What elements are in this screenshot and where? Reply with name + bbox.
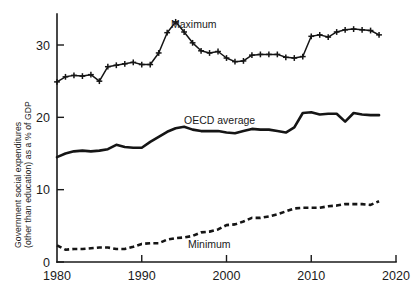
annotation-minimum: Minimum bbox=[188, 238, 231, 250]
y-tick-label-20: 20 bbox=[36, 111, 50, 125]
marker-maximum bbox=[308, 33, 314, 39]
marker-maximum bbox=[368, 28, 374, 34]
marker-maximum bbox=[139, 62, 145, 68]
annotation-maximum: Maximum bbox=[171, 18, 217, 30]
annotation-oecd-average: OECD average bbox=[184, 114, 255, 126]
x-tick-label-2000: 2000 bbox=[213, 269, 241, 283]
marker-maximum bbox=[232, 59, 238, 65]
marker-maximum bbox=[71, 72, 77, 78]
marker-maximum bbox=[130, 59, 136, 65]
marker-maximum bbox=[266, 52, 272, 58]
marker-maximum bbox=[283, 54, 289, 60]
marker-maximum bbox=[274, 52, 280, 58]
plot-area: 0102030 19801990200020102020 Maximum OEC… bbox=[0, 0, 414, 287]
x-axis-tick-labels: 19801990200020102020 bbox=[43, 269, 410, 283]
series-layer bbox=[54, 19, 382, 250]
marker-maximum bbox=[376, 32, 382, 38]
y-tick-label-10: 10 bbox=[36, 183, 50, 197]
marker-maximum bbox=[113, 62, 119, 68]
chart-figure: Government social expenditures (other th… bbox=[0, 0, 414, 287]
marker-maximum bbox=[351, 26, 357, 32]
marker-maximum bbox=[291, 55, 297, 61]
marker-maximum bbox=[342, 27, 348, 33]
marker-maximum bbox=[317, 32, 323, 38]
x-tick-label-1980: 1980 bbox=[43, 269, 71, 283]
y-axis-tick-labels: 0102030 bbox=[36, 39, 50, 270]
marker-maximum bbox=[359, 27, 365, 33]
y-tick-label-0: 0 bbox=[43, 256, 50, 270]
marker-maximum bbox=[258, 52, 264, 58]
marker-maximum bbox=[300, 54, 306, 60]
x-axis-ticks bbox=[142, 255, 396, 262]
y-tick-label-30: 30 bbox=[36, 39, 50, 53]
x-tick-label-2020: 2020 bbox=[382, 269, 410, 283]
marker-maximum bbox=[207, 50, 213, 56]
marker-maximum bbox=[122, 61, 128, 67]
x-tick-label-2010: 2010 bbox=[297, 269, 325, 283]
x-tick-label-1990: 1990 bbox=[128, 269, 156, 283]
marker-maximum bbox=[80, 73, 86, 79]
